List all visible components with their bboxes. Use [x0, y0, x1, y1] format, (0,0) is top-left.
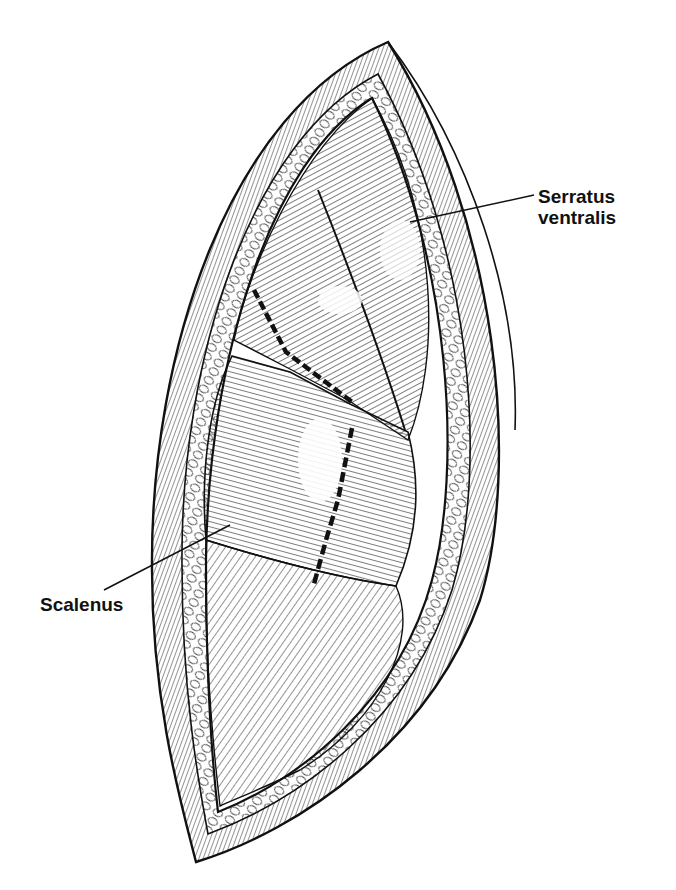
label-serratus-line2: ventralis — [538, 207, 616, 228]
label-scalenus: Scalenus — [40, 594, 123, 615]
label-serratus-line1: Serratus — [538, 186, 616, 207]
anatomical-illustration — [0, 0, 676, 890]
label-serratus-ventralis: Serratus ventralis — [538, 186, 616, 228]
